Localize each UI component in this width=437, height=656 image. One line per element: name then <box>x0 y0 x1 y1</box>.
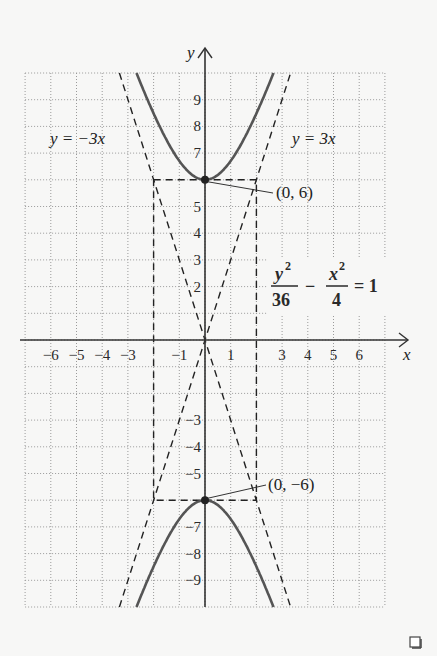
x-tick-label: 4 <box>304 347 312 363</box>
y-tick-label: −7 <box>185 519 201 535</box>
leader-line <box>208 182 273 193</box>
vertex-top-label: (0, 6) <box>276 183 313 202</box>
x-tick-label: 5 <box>330 347 338 363</box>
y-tick-label: −8 <box>185 546 201 562</box>
y-tick-label: 5 <box>194 199 202 215</box>
svg-text:2: 2 <box>285 259 291 273</box>
y-axis-label: y <box>185 43 195 62</box>
x-axis-label: x <box>402 345 411 364</box>
vertex-point <box>201 176 209 184</box>
y-tick-label: 8 <box>194 118 202 134</box>
x-tick-label: 3 <box>278 347 286 363</box>
x-tick-label: 1 <box>227 347 235 363</box>
hyperbola-plot: −6−5−4−3−1134569875432−3−4−5−7−8−9 y x y… <box>0 0 437 656</box>
y-tick-label: 3 <box>194 252 202 268</box>
equation-label: y 2 36 − x 2 4 = 1 <box>268 258 406 314</box>
y-tick-label: 4 <box>194 225 202 241</box>
end-of-proof-square-icon <box>410 637 421 648</box>
y-tick-label: −4 <box>185 439 201 455</box>
x-tick-label: −4 <box>94 347 110 363</box>
asymptote-neg-label: y = −3x <box>48 129 105 148</box>
vertex-bottom-label: (0, −6) <box>268 475 314 494</box>
y-tick-label: −5 <box>185 466 201 482</box>
svg-text:4: 4 <box>332 290 341 310</box>
asymptote-pos-label: y = 3x <box>290 129 336 148</box>
x-tick-label: −6 <box>43 347 59 363</box>
svg-text:y: y <box>273 264 284 284</box>
svg-text:x: x <box>328 264 338 284</box>
svg-text:2: 2 <box>339 259 345 273</box>
y-tick-label: 2 <box>194 279 202 295</box>
vertex-point <box>201 496 209 504</box>
svg-text:= 1: = 1 <box>354 276 378 296</box>
leader-line <box>208 485 266 498</box>
svg-text:36: 36 <box>272 290 290 310</box>
y-tick-label: 9 <box>194 92 202 108</box>
x-tick-label: −5 <box>69 347 85 363</box>
y-tick-label: −9 <box>185 572 201 588</box>
y-tick-label: 7 <box>194 145 202 161</box>
x-tick-label: 6 <box>355 347 363 363</box>
y-tick-label: −3 <box>185 412 201 428</box>
svg-text:−: − <box>305 276 315 296</box>
x-tick-label: −3 <box>120 347 136 363</box>
x-tick-label: −1 <box>171 347 187 363</box>
